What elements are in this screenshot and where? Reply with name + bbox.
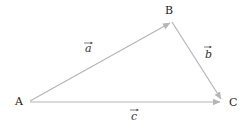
vector-triangle-diagram: A B C a b c [0, 0, 248, 130]
vector-a-label: a [85, 42, 92, 55]
point-b-label: B [165, 4, 173, 17]
vector-b-label: b [205, 48, 212, 61]
vector-b-label-group: b [204, 46, 212, 61]
vector-a-label-group: a [84, 42, 93, 55]
vector-b-arrow [172, 22, 221, 99]
point-a-label: A [14, 95, 24, 108]
point-c-label: C [229, 96, 237, 109]
vector-c-label: c [131, 110, 137, 123]
vector-a-arrow [30, 23, 170, 101]
vector-c-label-group: c [130, 109, 139, 123]
